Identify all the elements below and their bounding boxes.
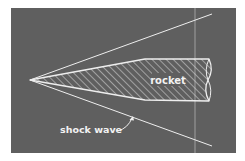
shock-wave-label: shock wave xyxy=(60,124,122,135)
rocket-shock-wave-diagram: rocket shock wave xyxy=(0,0,245,161)
rocket-label: rocket xyxy=(150,75,186,86)
